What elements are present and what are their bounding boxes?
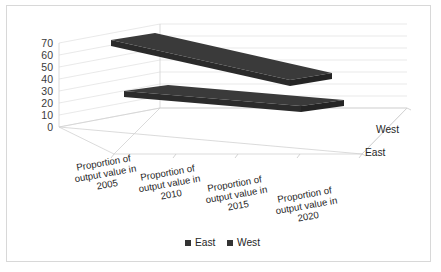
value-tick-0: 0	[47, 121, 53, 133]
depth-axis-labels: West East	[365, 124, 399, 158]
value-tick-10: 10	[41, 109, 53, 121]
chart-floor	[59, 108, 407, 154]
chart-plot-area: 70 60 50 40 30 20 10 0 Proportion of	[7, 6, 432, 263]
category-label-2005: Proportion of output value in 2005	[72, 152, 139, 195]
series-ribbon-east	[111, 33, 332, 86]
value-tick-50: 50	[41, 61, 53, 73]
legend-label-west: West	[237, 237, 260, 248]
legend-item-east[interactable]: East	[185, 237, 216, 248]
svg-text:2015: 2015	[227, 198, 250, 213]
legend-item-west[interactable]: West	[227, 237, 260, 248]
depth-label-east: East	[365, 147, 386, 158]
chart-container: 70 60 50 40 30 20 10 0 Proportion of	[6, 5, 431, 262]
category-label-2020: Proportion of output value in 2020	[273, 184, 340, 227]
legend-marker-west-icon	[227, 240, 233, 246]
value-tick-60: 60	[41, 49, 53, 61]
category-tick-marks	[111, 154, 362, 158]
svg-text:2020: 2020	[297, 209, 320, 224]
svg-text:2010: 2010	[160, 187, 183, 202]
gridlines-back-wall	[59, 24, 407, 127]
value-axis-labels: 70 60 50 40 30 20 10 0	[41, 37, 53, 133]
value-tick-70: 70	[41, 37, 53, 49]
value-tick-40: 40	[41, 73, 53, 85]
value-tick-20: 20	[41, 97, 53, 109]
legend-marker-east-icon	[185, 240, 191, 246]
category-label-2015: Proportion of output value in 2015	[203, 173, 270, 216]
depth-label-west: West	[376, 124, 399, 135]
chart-legend: East West	[185, 237, 260, 248]
value-tick-30: 30	[41, 85, 53, 97]
svg-text:2005: 2005	[96, 177, 119, 192]
category-label-2010: Proportion of output value in 2010	[136, 162, 203, 205]
category-axis-labels: Proportion of output value in 2005 Propo…	[72, 152, 340, 227]
legend-label-east: East	[195, 237, 216, 248]
